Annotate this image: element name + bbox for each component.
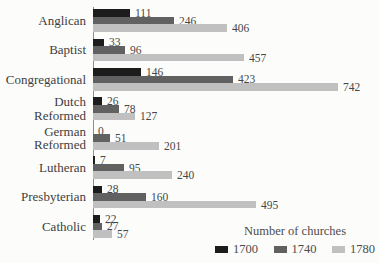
category-label: Lutheran <box>0 161 93 175</box>
bar-1700 <box>93 215 100 223</box>
category-row-presbyterian: Presbyterian28160495 <box>0 182 379 211</box>
bar-1740 <box>93 105 119 113</box>
bar-1700 <box>93 68 141 76</box>
value-label: 240 <box>177 169 194 181</box>
bar-1780 <box>93 230 112 238</box>
bar-line: 51 <box>93 134 379 142</box>
bar-line: 146 <box>93 68 379 76</box>
legend-item-1700: 1700 <box>215 242 258 257</box>
category-label: Catholic <box>0 220 93 234</box>
bar-group: 3396457 <box>93 39 379 62</box>
category-label: DutchReformed <box>0 95 93 122</box>
bar-1780 <box>93 24 227 32</box>
category-row-baptist: Baptist3396457 <box>0 35 379 64</box>
bar-line: 0 <box>93 127 379 135</box>
bar-line: 742 <box>93 83 379 91</box>
legend-item-1780: 1780 <box>332 242 375 257</box>
category-row-dutch-reformed: DutchReformed2678127 <box>0 94 379 123</box>
bar-line: 423 <box>93 76 379 84</box>
bar-line: 240 <box>93 171 379 179</box>
legend-label: 1740 <box>292 242 317 257</box>
legend-title: Number of churches <box>215 224 375 239</box>
value-label: 57 <box>117 228 129 240</box>
bar-line: 201 <box>93 142 379 150</box>
legend-label: 1780 <box>350 242 375 257</box>
bar-1700 <box>93 97 102 105</box>
bar-1740 <box>93 193 146 201</box>
legend-swatch <box>274 246 287 253</box>
category-label: GermanReformed <box>0 125 93 152</box>
bar-1740 <box>93 223 102 231</box>
bar-line: 96 <box>93 46 379 54</box>
bar-1700 <box>93 9 130 17</box>
bar-line: 22 <box>93 215 379 223</box>
legend-swatch <box>332 246 345 253</box>
value-label: 406 <box>232 22 249 34</box>
legend-items: 170017401780 <box>215 242 375 257</box>
bar-1780 <box>93 54 244 62</box>
bar-1740 <box>93 46 125 54</box>
bar-line: 95 <box>93 164 379 172</box>
category-label: Congregational <box>0 73 93 87</box>
bar-1780 <box>93 142 159 150</box>
category-row-congregational: Congregational146423742 <box>0 65 379 94</box>
bar-1780 <box>93 201 256 209</box>
category-label: Presbyterian <box>0 190 93 204</box>
bar-line: 406 <box>93 24 379 32</box>
bar-group: 111246406 <box>93 9 379 32</box>
bar-1740 <box>93 17 174 25</box>
bar-1700 <box>93 186 102 194</box>
chart-plot-area: Anglican111246406Baptist3396457Congregat… <box>0 6 379 241</box>
category-row-german-reformed: GermanReformed051201 <box>0 124 379 153</box>
category-row-lutheran: Lutheran795240 <box>0 153 379 182</box>
bar-group: 146423742 <box>93 68 379 91</box>
value-label: 457 <box>249 51 266 63</box>
churches-bar-chart: Anglican111246406Baptist3396457Congregat… <box>0 0 379 263</box>
bar-1780 <box>93 171 172 179</box>
bar-line: 160 <box>93 193 379 201</box>
legend-swatch <box>215 246 228 253</box>
bar-1740 <box>93 164 124 172</box>
bar-1740 <box>93 76 233 84</box>
bar-line: 28 <box>93 186 379 194</box>
value-label: 201 <box>164 139 181 151</box>
category-row-anglican: Anglican111246406 <box>0 6 379 35</box>
bar-1780 <box>93 113 135 121</box>
bar-group: 2678127 <box>93 97 379 120</box>
bar-group: 051201 <box>93 127 379 150</box>
value-label: 495 <box>261 198 278 210</box>
legend: Number of churches 170017401780 <box>215 224 375 257</box>
category-label: Anglican <box>0 14 93 28</box>
legend-item-1740: 1740 <box>274 242 317 257</box>
category-label: Baptist <box>0 43 93 57</box>
bar-1780 <box>93 83 338 91</box>
bar-line: 457 <box>93 54 379 62</box>
value-label: 127 <box>140 110 157 122</box>
bar-line: 495 <box>93 201 379 209</box>
bar-group: 795240 <box>93 156 379 179</box>
bar-1700 <box>93 156 95 164</box>
bar-1740 <box>93 134 110 142</box>
bar-line: 78 <box>93 105 379 113</box>
bar-line: 111 <box>93 9 379 17</box>
bar-group: 28160495 <box>93 186 379 209</box>
bar-1700 <box>93 39 104 47</box>
legend-label: 1700 <box>233 242 258 257</box>
bar-line: 127 <box>93 113 379 121</box>
value-label: 742 <box>343 81 360 93</box>
